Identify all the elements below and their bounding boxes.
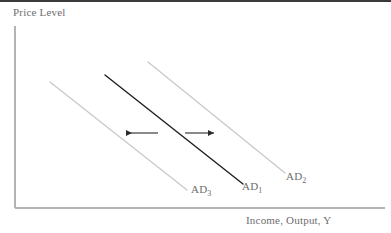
- y-axis-title: Price Level: [13, 6, 66, 18]
- ad3-curve-label: AD3: [191, 183, 212, 195]
- ad3-label-text: AD: [191, 183, 207, 195]
- ad1-label-subscript: 1: [258, 186, 262, 195]
- aggregate-demand-figure: Price Level Income, Output, Y AD3 AD1 AD…: [0, 0, 391, 233]
- ad1-curve-line: [105, 75, 243, 184]
- ad2-curve-label: AD2: [286, 170, 307, 182]
- x-axis-title: Income, Output, Y: [246, 214, 331, 226]
- ad3-label-subscript: 3: [207, 189, 211, 198]
- ad1-label-text: AD: [242, 180, 258, 192]
- axis-group: [15, 26, 385, 208]
- ad2-curve-line: [148, 62, 285, 173]
- ad3-curve-line: [50, 82, 187, 190]
- ad2-label-subscript: 2: [302, 176, 306, 185]
- ad2-label-text: AD: [286, 170, 302, 182]
- ad1-curve-label: AD1: [242, 180, 263, 192]
- demand-curves-group: [50, 62, 285, 190]
- plot-canvas: [0, 0, 391, 233]
